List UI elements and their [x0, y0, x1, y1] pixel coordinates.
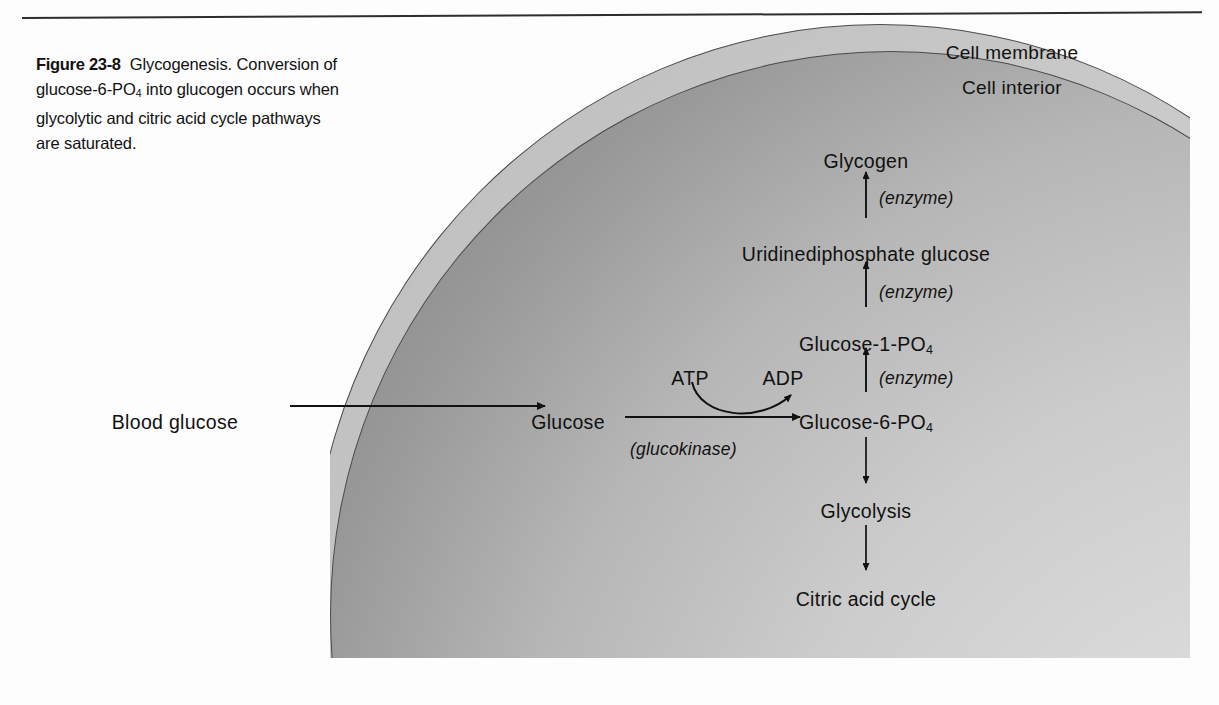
figure-page: Figure 23-8 Glycogenesis. Conversion of …	[0, 0, 1219, 705]
pathway-arrows: Glucose (crosses membrane) --> Glucose-6…	[0, 0, 1219, 705]
arrow-atp-to-adp	[692, 382, 791, 413]
